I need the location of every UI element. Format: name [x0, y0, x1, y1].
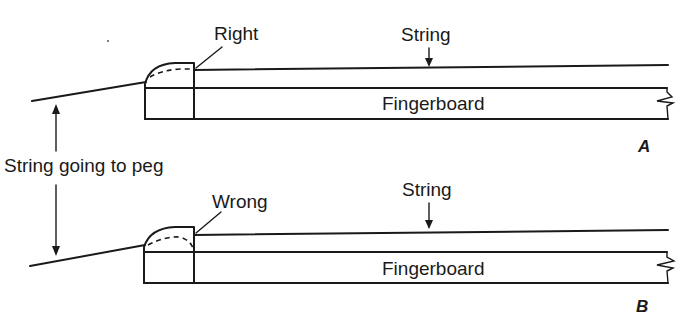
speck [107, 40, 109, 42]
arrow-down-head [52, 246, 60, 256]
nut-groove-b [148, 237, 193, 248]
string-b [194, 230, 668, 235]
nut-groove-a [150, 69, 193, 77]
panel-b: Wrong String Fingerboard B [30, 179, 674, 316]
nut-a [145, 63, 194, 119]
nut-b [144, 227, 194, 283]
nut-label-a: Right [214, 23, 259, 44]
peg-string-b [30, 245, 145, 266]
panel-label-b: B [636, 297, 648, 316]
nut-label-b: Wrong [212, 191, 268, 212]
panel-label-a: A [637, 137, 650, 156]
string-label-a: String [401, 24, 451, 45]
break-mark-a [657, 88, 673, 119]
nut-string-diagram: Right String Fingerboard A Wrong String … [0, 0, 698, 324]
peg-label-group: String going to peg [4, 104, 164, 256]
right-leader [196, 47, 222, 68]
fingerboard-label-a: Fingerboard [382, 93, 484, 114]
peg-string-a [32, 82, 146, 101]
wrong-leader [196, 212, 221, 233]
string-label-b: String [402, 179, 452, 200]
fingerboard-label-b: Fingerboard [382, 258, 484, 279]
string-a [194, 65, 668, 70]
peg-label: String going to peg [4, 155, 164, 176]
break-mark-b [657, 252, 674, 283]
panel-a: Right String Fingerboard A [32, 23, 673, 156]
arrow-up-head [52, 104, 60, 114]
